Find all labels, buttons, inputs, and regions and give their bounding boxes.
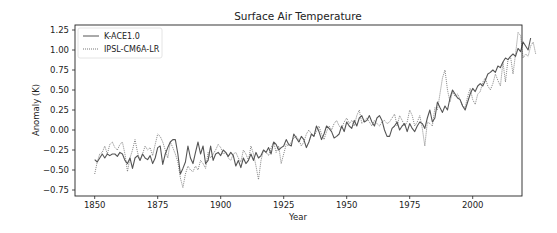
x-tick-label: 1850 bbox=[84, 200, 106, 210]
chart-title: Surface Air Temperature bbox=[234, 10, 362, 22]
y-tick-label: 0.75 bbox=[50, 65, 69, 75]
surface-air-temperature-chart: Surface Air Temperature 1850187519001925… bbox=[0, 0, 557, 233]
y-tick-label: −0.75 bbox=[43, 185, 69, 195]
legend-label-ipsl: IPSL-CM6A-LR bbox=[104, 45, 160, 54]
x-tick-label: 1975 bbox=[399, 200, 421, 210]
y-tick-label: 1.00 bbox=[50, 45, 69, 55]
y-tick-label: −0.25 bbox=[43, 145, 69, 155]
y-tick-label: 1.25 bbox=[50, 25, 69, 35]
y-axis: −0.75−0.50−0.250.000.250.500.751.001.25 bbox=[43, 25, 75, 195]
y-tick-label: 0.25 bbox=[50, 105, 69, 115]
x-tick-label: 1950 bbox=[336, 200, 358, 210]
x-tick-label: 1875 bbox=[147, 200, 169, 210]
y-tick-label: −0.50 bbox=[43, 165, 69, 175]
x-tick-label: 1900 bbox=[210, 200, 232, 210]
y-tick-label: 0.50 bbox=[50, 85, 69, 95]
legend-label-k-ace: K-ACE1.0 bbox=[104, 32, 140, 41]
y-axis-title: Anomaly (K) bbox=[31, 84, 41, 136]
x-axis-title: Year bbox=[288, 212, 308, 222]
x-axis: 1850187519001925195019752000 bbox=[84, 196, 484, 210]
x-tick-label: 2000 bbox=[462, 200, 484, 210]
legend: K-ACE1.0 IPSL-CM6A-LR bbox=[78, 28, 162, 58]
x-tick-label: 1925 bbox=[273, 200, 295, 210]
y-tick-label: 0.00 bbox=[50, 125, 69, 135]
